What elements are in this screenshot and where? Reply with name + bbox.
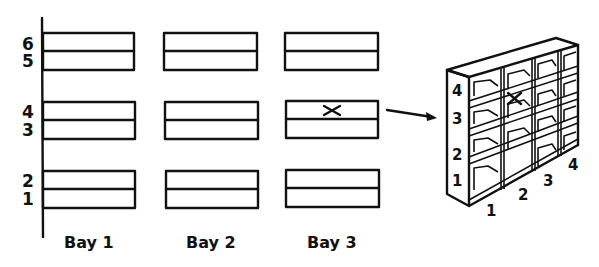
bay-label-3: Bay 3: [307, 233, 357, 252]
bay-label-2: Bay 2: [186, 233, 236, 252]
bay-2-shelves: [164, 33, 258, 208]
pigeonhole-cabinet: 4 3 2 1 1 2 3 4: [447, 38, 578, 220]
cabinet-dividers: [501, 49, 561, 190]
cabinet-row-label-3: 3: [452, 110, 462, 128]
cabinet-row-label-4: 4: [452, 82, 462, 100]
level-label-2: 2: [22, 171, 34, 191]
cabinet-col-label-1: 1: [486, 202, 496, 220]
cabinet-row-label-2: 2: [452, 146, 462, 164]
cabinet-col-label-3: 3: [543, 172, 553, 190]
bay-3-shelves: [285, 33, 379, 207]
level-label-1: 1: [22, 189, 34, 209]
level-label-5: 5: [22, 51, 34, 71]
arrow-right-icon: [387, 110, 437, 121]
bay-diagram: 6 5 4 3 2 1 Bay 1 Bay 2 Bay 3: [0, 0, 599, 267]
cabinet-col-label-4: 4: [568, 156, 578, 174]
level-label-4: 4: [22, 102, 34, 122]
bay-1-shelves: [43, 33, 135, 208]
location-marker-icon: [324, 106, 340, 115]
cabinet-col-label-2: 2: [518, 186, 528, 204]
level-label-3: 3: [22, 120, 34, 140]
cabinet-row-label-1: 1: [452, 172, 462, 190]
bay-label-1: Bay 1: [64, 233, 114, 252]
